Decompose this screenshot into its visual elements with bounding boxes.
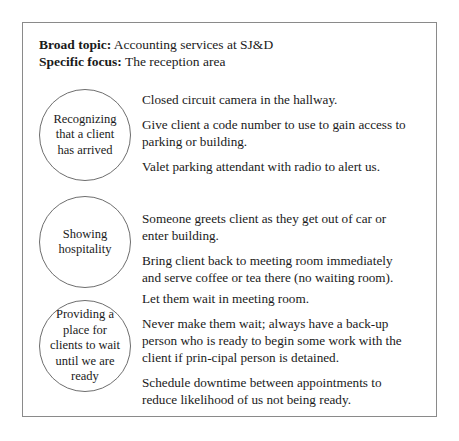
broad-topic-line: Broad topic: Accounting services at SJ&D	[39, 36, 419, 53]
paragraph-item: Bring client back to meeting room immedi…	[142, 252, 414, 286]
paragraph-column: Closed circuit camera in the hallway. Gi…	[142, 91, 414, 175]
broad-topic-value: Accounting services at SJ&D	[114, 37, 273, 52]
paragraph-item: Never make them wait; always have a back…	[142, 315, 414, 366]
paragraph-item: Closed circuit camera in the hallway.	[142, 91, 414, 108]
circle-label: Showing hospitality	[40, 227, 130, 258]
circle-label: Recognizing that a client has arrived	[40, 112, 130, 159]
diagram-frame: Broad topic: Accounting services at SJ&D…	[22, 22, 437, 417]
paragraph-column: Someone greets client as they get out of…	[142, 210, 414, 286]
paragraph-item: Valet parking attendant with radio to al…	[142, 158, 414, 175]
circle-shape: Recognizing that a client has arrived	[39, 89, 131, 181]
paragraph-item: Someone greets client as they get out of…	[142, 210, 414, 244]
paragraph-column: Let them wait in meeting room. Never mak…	[142, 290, 414, 408]
circle-shape: Showing hospitality	[39, 196, 131, 288]
paragraph-item: Give client a code number to use to gain…	[142, 116, 414, 150]
paragraph-item: Let them wait in meeting room.	[142, 290, 414, 307]
broad-topic-label: Broad topic:	[39, 37, 111, 52]
header-block: Broad topic: Accounting services at SJ&D…	[39, 36, 419, 70]
specific-focus-value: The reception area	[125, 54, 225, 69]
specific-focus-label: Specific focus:	[39, 54, 122, 69]
specific-focus-line: Specific focus: The reception area	[39, 53, 419, 70]
circle-shape: Providing a place for clients to wait un…	[39, 300, 131, 392]
circle-label: Providing a place for clients to wait un…	[40, 307, 130, 385]
paragraph-item: Schedule downtime between appointments t…	[142, 374, 414, 408]
